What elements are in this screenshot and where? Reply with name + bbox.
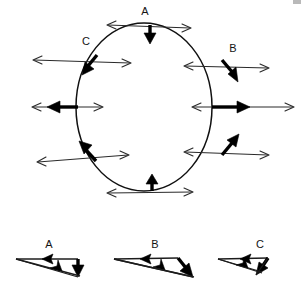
triangle-B-label: B — [151, 238, 158, 250]
velocity-vector-bottom-left — [38, 155, 128, 162]
velocity-vector-C — [34, 60, 130, 63]
vector-pair-bottom-left — [37, 141, 129, 166]
vector-pair-right — [192, 101, 294, 113]
circle-diagram-group: A B C — [32, 5, 294, 197]
arrowhead-down-A — [144, 33, 156, 44]
velocity-vector-bottom — [108, 192, 192, 193]
physics-vector-figure: A B C A B — [0, 0, 304, 287]
arrowhead-thick-south — [146, 174, 158, 184]
triangle-A-closing-edge — [16, 259, 78, 277]
vector-triangle-C: C — [218, 238, 268, 275]
triangle-A-label: A — [45, 238, 53, 250]
label-A: A — [141, 5, 149, 17]
label-C: C — [82, 35, 90, 47]
figure-root: A B C A B — [0, 0, 304, 287]
vector-triangle-B: B — [114, 238, 194, 277]
vector-pair-left — [32, 101, 103, 113]
label-B: B — [229, 42, 236, 54]
vector-pair-B — [184, 60, 269, 82]
vector-pair-A — [107, 21, 191, 44]
triangle-C-closing-edge — [218, 259, 262, 273]
triangle-C-label: C — [256, 238, 264, 250]
vector-pair-bottom-right — [184, 134, 269, 159]
arrowhead-thick-east — [237, 101, 250, 113]
arrowhead-thick-west — [47, 101, 60, 113]
velocity-vector-bottom-right — [185, 152, 268, 155]
corner-artifact — [293, 0, 301, 4]
vector-triangle-A: A — [16, 238, 84, 277]
